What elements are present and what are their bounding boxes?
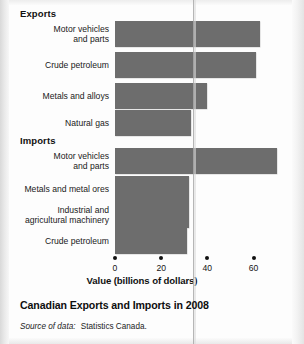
bar-category-label-line1: Crude petroleum xyxy=(0,60,109,70)
bar-category-label-line2: and parts xyxy=(0,161,109,171)
bar-row: Crude petroleum xyxy=(0,228,304,254)
bar-category-label-line1: Metals and alloys xyxy=(0,91,109,101)
bar-category-label: Crude petroleum xyxy=(0,60,115,70)
figure-title: Canadian Exports and Imports in 2008 xyxy=(20,299,209,311)
axis-tick-dot xyxy=(113,256,117,260)
bar-4[interactable] xyxy=(115,110,191,136)
bar-category-label-line2: agricultural machinery xyxy=(0,215,109,225)
x-axis-title: Value (billions of dollars) xyxy=(0,275,304,286)
bar-chart-plot-area: ExportsImportsMotor vehiclesand partsCru… xyxy=(0,0,304,344)
bar-category-label: Metals and metal ores xyxy=(0,184,115,194)
group-header-imports: Imports xyxy=(20,135,56,146)
bar-2[interactable] xyxy=(115,52,256,78)
bar-category-label: Metals and alloys xyxy=(0,91,115,101)
bar-category-label: Motor vehiclesand parts xyxy=(0,24,115,45)
bar-category-label: Natural gas xyxy=(0,118,115,128)
bar-row: Motor vehiclesand parts xyxy=(0,148,304,174)
bar-row: Natural gas xyxy=(0,110,304,136)
axis-tick-label: 20 xyxy=(156,263,166,273)
bar-8[interactable] xyxy=(115,228,187,254)
bar-category-label-line1: Motor vehicles xyxy=(0,24,109,34)
figure-source-text: Statistics Canada. xyxy=(81,322,147,331)
bar-category-label-line2: and parts xyxy=(0,34,109,44)
x-axis-title-text: Value (billions of dollars) xyxy=(87,275,198,286)
figure-page: ExportsImportsMotor vehiclesand partsCru… xyxy=(0,0,304,344)
bar-row: Metals and alloys xyxy=(0,83,304,109)
axis-tick-dot xyxy=(205,256,209,260)
axis-tick-label: 60 xyxy=(249,263,259,273)
bar-row: Industrial andagricultural machinery xyxy=(0,202,304,228)
bar-row: Motor vehiclesand parts xyxy=(0,21,304,47)
bar-row: Metals and metal ores xyxy=(0,176,304,202)
axis-tick-label: 0 xyxy=(113,263,118,273)
book-crease-shadow xyxy=(194,0,196,344)
bar-1[interactable] xyxy=(115,21,260,47)
bar-6[interactable] xyxy=(115,176,189,202)
bar-category-label-line1: Crude petroleum xyxy=(0,236,109,246)
figure-source-lead: Source of data: xyxy=(20,322,76,331)
bar-category-label-line1: Motor vehicles xyxy=(0,151,109,161)
axis-tick-dot xyxy=(159,256,163,260)
axis-tick-dot xyxy=(252,256,256,260)
bar-category-label-line1: Industrial and xyxy=(0,205,109,215)
bar-7[interactable] xyxy=(115,202,189,228)
axis-tick-label: 40 xyxy=(203,263,213,273)
bar-category-label: Motor vehiclesand parts xyxy=(0,151,115,172)
figure-source: Source of data: Statistics Canada. xyxy=(20,322,147,331)
bar-category-label-line1: Metals and metal ores xyxy=(0,184,109,194)
bar-row: Crude petroleum xyxy=(0,52,304,78)
group-header-exports: Exports xyxy=(20,8,56,19)
bar-category-label: Crude petroleum xyxy=(0,236,115,246)
bar-category-label-line1: Natural gas xyxy=(0,118,109,128)
bar-category-label: Industrial andagricultural machinery xyxy=(0,205,115,226)
